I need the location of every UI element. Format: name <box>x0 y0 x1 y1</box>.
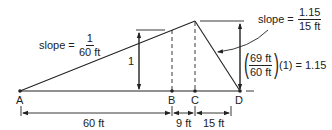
dim-label-15ft: 15 ft <box>203 118 224 129</box>
ratio-fraction: 69 ft 60 ft <box>249 53 272 78</box>
left-slope-denominator: 60 ft <box>79 46 100 58</box>
right-slope-numerator: 1.15 <box>298 7 321 20</box>
dim-label-9ft: 9 ft <box>176 118 191 129</box>
ratio-numerator: 69 ft <box>249 53 272 66</box>
point-label-a: A <box>16 95 23 106</box>
ratio-suffix: (1) = 1.15 <box>279 60 326 71</box>
height-label: 1 <box>128 56 134 67</box>
point-label-b: B <box>168 95 175 106</box>
dim-label-60ft: 60 ft <box>83 118 104 129</box>
point-label-d: D <box>235 95 243 106</box>
right-slope-line <box>195 21 240 91</box>
right-slope-fraction: 1.15 15 ft <box>298 7 321 32</box>
left-slope-fraction: 1 60 ft <box>79 33 100 58</box>
left-slope-numerator: 1 <box>86 33 94 46</box>
point-d <box>238 89 242 93</box>
left-slope-line <box>20 21 195 91</box>
slope-leader-arrow <box>218 30 268 52</box>
point-label-c: C <box>191 95 199 106</box>
point-b <box>170 89 174 93</box>
point-c <box>193 89 197 93</box>
point-a <box>18 89 22 93</box>
right-slope-prefix: slope = <box>258 14 294 25</box>
ratio-denominator: 60 ft <box>250 66 271 78</box>
right-slope-denominator: 15 ft <box>299 20 320 32</box>
left-slope-prefix: slope = <box>39 40 75 51</box>
